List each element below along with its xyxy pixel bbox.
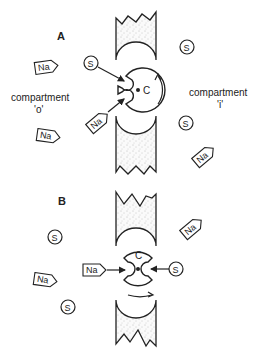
membrane-upper-a bbox=[116, 12, 156, 60]
svg-text:S: S bbox=[88, 59, 94, 69]
s-molecule-binding-b: S bbox=[151, 262, 183, 276]
na-molecule-free: Na bbox=[192, 144, 217, 168]
s-molecule-free: S bbox=[180, 40, 194, 54]
compartment-i-label: compartment bbox=[189, 87, 248, 98]
na-molecule-free: Na bbox=[36, 129, 60, 144]
na-molecule-free: Na bbox=[33, 273, 57, 288]
na-molecule-binding-b: Na bbox=[83, 264, 125, 276]
svg-text:S: S bbox=[184, 43, 190, 53]
na-molecule-free: Na bbox=[34, 59, 58, 74]
membrane-lower-b bbox=[116, 300, 156, 346]
s-molecule-free: S bbox=[61, 300, 75, 314]
svg-text:S: S bbox=[65, 303, 71, 313]
compartment-o-sub: 'o' bbox=[34, 104, 43, 115]
panel-a: A C S Na bbox=[11, 12, 248, 174]
compartment-o-label: compartment bbox=[11, 92, 70, 103]
membrane-upper-b bbox=[116, 192, 156, 246]
carrier-a: C bbox=[118, 68, 165, 112]
s-molecule-free: S bbox=[179, 116, 193, 130]
carrier-b: C bbox=[124, 250, 153, 297]
carrier-label-b: C bbox=[135, 250, 142, 261]
s-molecule-free: S bbox=[48, 230, 62, 244]
s-molecule-binding-a: S bbox=[84, 56, 124, 81]
na-molecule-free: Na bbox=[180, 216, 205, 240]
panel-label-a: A bbox=[57, 30, 65, 42]
carrier-center-dot bbox=[136, 267, 140, 271]
svg-text:Na: Na bbox=[39, 130, 52, 142]
compartment-i-sub: 'i' bbox=[217, 99, 223, 110]
carrier-label-a: C bbox=[143, 85, 150, 96]
svg-text:S: S bbox=[183, 119, 189, 129]
diagram-canvas: A C S Na bbox=[0, 0, 272, 360]
carrier-center-dot bbox=[136, 88, 140, 92]
panel-b: B C Na S bbox=[33, 192, 205, 346]
membrane-lower-a bbox=[116, 116, 156, 174]
svg-text:Na: Na bbox=[86, 265, 98, 275]
svg-text:Na: Na bbox=[37, 62, 50, 74]
svg-text:S: S bbox=[173, 265, 179, 275]
panel-label-b: B bbox=[58, 195, 66, 207]
svg-text:S: S bbox=[52, 233, 58, 243]
svg-text:Na: Na bbox=[36, 274, 49, 286]
